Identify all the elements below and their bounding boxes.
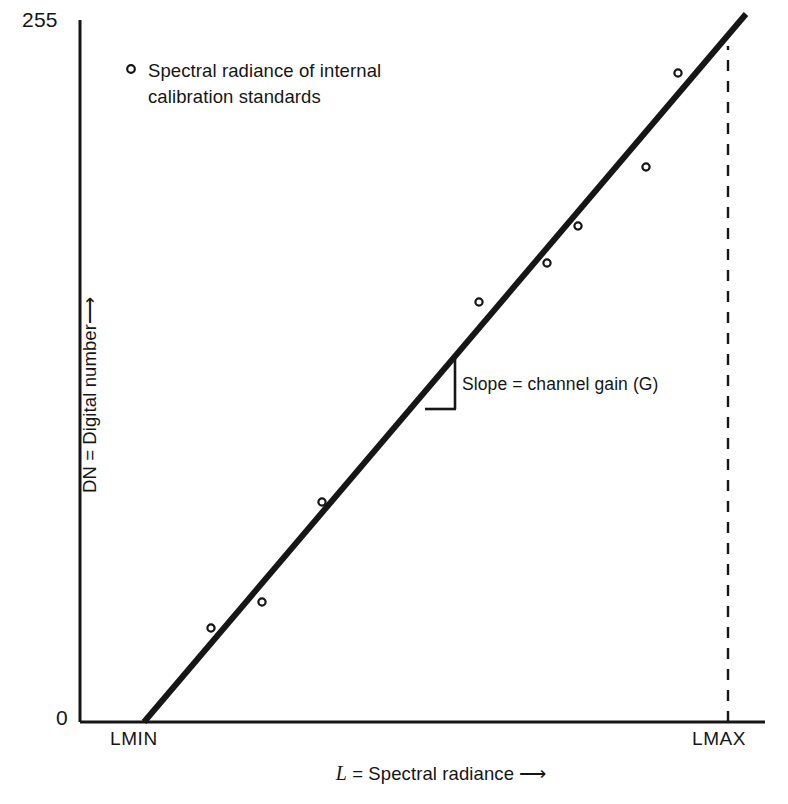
x-axis-lmax-label: LMAX	[692, 728, 746, 750]
slope-annotation-label: Slope = channel gain (G)	[462, 374, 658, 395]
plot-canvas	[0, 0, 788, 804]
y-axis-title-text: DN = Digital number	[79, 324, 100, 493]
legend-label: Spectral radiance of internal calibratio…	[148, 58, 381, 110]
data-point-markers	[207, 69, 681, 631]
y-axis-title: DN = Digital number⟶	[79, 246, 101, 546]
x-axis-title-symbol: L	[336, 762, 347, 784]
data-point	[318, 498, 325, 505]
y-axis-min-tick-label: 0	[56, 706, 68, 730]
data-point	[207, 624, 214, 631]
calibration-fit-line	[144, 14, 746, 722]
data-point	[475, 298, 482, 305]
data-point	[642, 163, 649, 170]
data-point	[574, 222, 581, 229]
x-axis-title-text: = Spectral radiance	[347, 763, 519, 784]
data-point	[543, 259, 550, 266]
data-point	[674, 69, 681, 76]
legend-marker-icon	[127, 65, 135, 73]
y-axis-max-tick-label: 255	[22, 8, 58, 32]
data-point	[258, 598, 265, 605]
x-axis-arrow-icon: ⟶	[519, 763, 544, 784]
calibration-chart-figure: 255 0 LMIN LMAX Spectral radiance of int…	[0, 0, 788, 804]
x-axis-lmin-label: LMIN	[110, 728, 158, 750]
y-axis-arrow-icon: ⟶	[79, 299, 100, 324]
x-axis-title: L = Spectral radiance ⟶	[230, 762, 650, 785]
